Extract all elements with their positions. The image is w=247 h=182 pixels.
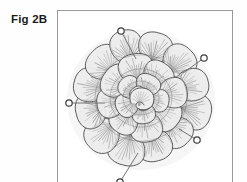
- figure-frame: [57, 10, 233, 182]
- callout-top-right-marker[interactable]: [201, 55, 207, 61]
- figure-page: Fig 2B: [0, 0, 247, 182]
- rosette-illustration: [57, 10, 233, 182]
- callout-bottom-marker[interactable]: [117, 179, 123, 182]
- figure-label: Fig 2B: [11, 13, 47, 25]
- callout-bottom-right-marker[interactable]: [194, 137, 200, 143]
- callout-left-marker[interactable]: [66, 100, 72, 106]
- callout-top-left-marker[interactable]: [118, 28, 124, 34]
